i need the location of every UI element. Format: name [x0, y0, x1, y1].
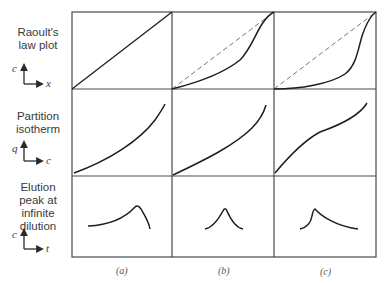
axis-icon-raoult [24, 67, 40, 84]
column-label-b: (b) [218, 265, 230, 277]
raoult-plot-b [172, 12, 274, 89]
column-label-a: (a) [116, 265, 128, 277]
raoult-plot-c [274, 12, 376, 89]
axis-icon-isotherm [24, 144, 40, 161]
elution-peak-c [300, 209, 358, 229]
column-label-c: (c) [320, 266, 332, 278]
isotherm-plot-b [173, 105, 266, 175]
y-axis-label-isotherm: q [12, 142, 18, 154]
x-axis-label-raoult: x [45, 77, 51, 89]
x-axis-label-elution: t [46, 242, 50, 254]
figure-canvas: c x q c c t (a) (b) (c) [0, 0, 386, 283]
y-axis-label-raoult: c [12, 62, 17, 74]
axis-icon-elution [24, 232, 40, 249]
elution-peak-b [205, 209, 243, 229]
elution-peak-a [88, 206, 150, 229]
isotherm-plot-c [275, 103, 367, 173]
x-axis-label-isotherm: c [46, 154, 51, 166]
y-axis-label-elution: c [12, 228, 17, 240]
isotherm-plot-a [74, 104, 165, 173]
raoult-plot-a [72, 12, 172, 89]
